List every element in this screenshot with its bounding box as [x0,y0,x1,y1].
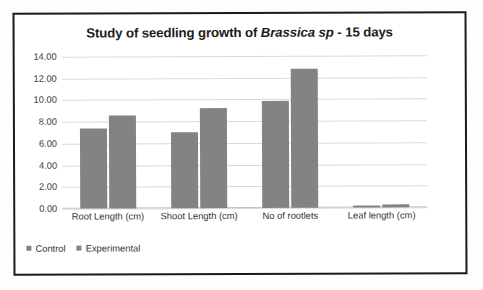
legend-label: Control [35,243,65,254]
chart-title-after: - 15 days [334,24,393,39]
legend-square-marker-icon [77,246,82,251]
legend-item-control[interactable]: Control [26,243,65,254]
bar-chart: Study of seedling growth of Brassica sp … [15,13,466,274]
x-axis-category-label: Root Length (cm) [62,210,153,222]
bar-experimental-0[interactable] [109,115,136,208]
bar-series-container [62,55,428,208]
scanned-page: Study of seedling growth of Brassica sp … [0,0,483,290]
bar-experimental-2[interactable] [291,69,319,208]
legend-item-experimental[interactable]: Experimental [77,242,141,253]
y-axis-tick-label: 6.00 [39,139,57,149]
x-axis-category-labels: Root Length (cm)Shoot Length (cm)No of r… [62,209,427,244]
bar-group [244,56,336,208]
legend-square-marker-icon [26,246,31,251]
bar-group [153,56,245,208]
bar-control-0[interactable] [80,128,107,208]
plot-area: 14.0012.0010.008.006.004.002.000.00 [62,55,428,208]
legend-label: Experimental [86,242,141,253]
x-axis-category-label: Leaf length (cm) [336,209,427,221]
y-axis-tick-label: 2.00 [39,182,57,192]
y-axis-tick-label: 4.00 [39,160,57,170]
x-axis-category-label: No of rootlets [245,210,336,222]
x-axis-category-label: Shoot Length (cm) [154,210,245,222]
chart-title-before: Study of seedling growth of [86,25,261,41]
bar-control-2[interactable] [262,101,289,208]
bar-experimental-3[interactable] [383,205,410,208]
y-axis-tick-label: 12.00 [33,73,56,83]
y-axis-tick-label: 14.00 [33,52,56,62]
y-axis-tick-label: 10.00 [34,95,57,105]
bar-group [62,56,154,208]
chart-frame: Study of seedling growth of Brassica sp … [12,11,467,276]
y-axis-tick-label: 8.00 [39,117,57,127]
y-axis-tick-label: 0.00 [39,204,57,214]
chart-title-species: Brassica sp [261,25,334,40]
bar-group [335,55,427,207]
bar-control-1[interactable] [171,132,198,208]
chart-title: Study of seedling growth of Brassica sp … [15,24,465,41]
bar-control-3[interactable] [354,205,381,207]
bar-experimental-1[interactable] [200,108,227,208]
chart-legend: ControlExperimental [26,242,140,253]
